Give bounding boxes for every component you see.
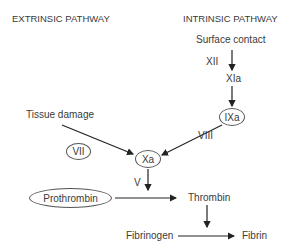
- thrombin-label: Thrombin: [188, 192, 230, 204]
- xii-label: XII: [206, 56, 218, 68]
- ixa-node: IXa: [219, 108, 245, 126]
- fibrin-label: Fibrin: [242, 230, 267, 242]
- tissue-damage-label: Tissue damage: [26, 109, 94, 121]
- xia-label: XIa: [226, 73, 241, 85]
- extrinsic-pathway-header: EXTRINSIC PATHWAY: [12, 13, 110, 25]
- coagulation-cascade-diagram: EXTRINSIC PATHWAY INTRINSIC PATHWAY Surf…: [0, 0, 282, 250]
- prothrombin-node: Prothrombin: [29, 188, 112, 208]
- xa-node: Xa: [135, 150, 161, 168]
- surface-contact-label: Surface contact: [196, 34, 265, 46]
- vii-node: VII: [66, 143, 91, 160]
- intrinsic-pathway-header: INTRINSIC PATHWAY: [183, 13, 278, 25]
- v-label: V: [134, 177, 141, 189]
- fibrinogen-label: Fibrinogen: [126, 230, 173, 242]
- viii-label: VIII: [198, 130, 213, 142]
